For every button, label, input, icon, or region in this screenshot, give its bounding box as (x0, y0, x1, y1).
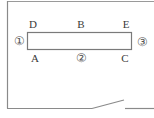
inner-rectangle (28, 33, 132, 50)
label-circle-3: ③ (137, 37, 148, 48)
label-d: D (29, 19, 37, 30)
label-a: A (31, 53, 39, 64)
diagram-canvas: D B E ① ③ A ② C (0, 0, 154, 118)
label-circle-2: ② (76, 53, 87, 64)
label-circle-1: ① (14, 36, 25, 47)
door-line (92, 100, 124, 109)
label-b: B (77, 19, 84, 30)
label-c: C (121, 53, 128, 64)
label-e: E (123, 19, 130, 30)
